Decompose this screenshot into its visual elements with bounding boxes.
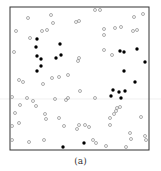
open-point [75,21,78,24]
open-point [46,29,49,32]
open-point [11,139,14,142]
filled-point [39,64,42,67]
figure-caption: (a) [0,156,161,166]
filled-point [123,89,126,92]
open-point [79,90,82,93]
filled-point [118,49,121,52]
open-point [125,146,128,149]
open-point [115,110,118,113]
open-point [95,142,98,145]
open-point [78,20,81,23]
filled-point [59,53,62,56]
filled-point [143,60,146,63]
filled-point [122,50,125,53]
filled-point [35,54,38,57]
open-point [145,139,148,142]
open-point [133,16,136,19]
open-points-series [11,9,148,149]
open-point [28,141,31,144]
open-point [77,60,80,63]
filled-point [133,80,136,83]
filled-point [58,42,61,45]
open-point [142,13,145,16]
open-point [51,77,54,80]
open-point [78,57,81,60]
open-point [58,76,61,79]
open-point [45,118,48,121]
filled-point [117,90,120,93]
open-point [18,79,21,82]
open-point [120,26,123,29]
open-point [88,126,91,129]
filled-point [35,69,38,72]
open-point [42,83,45,86]
open-point [94,9,97,12]
open-point [103,34,106,37]
open-point [136,29,139,32]
open-point [14,112,17,115]
open-point [43,139,46,142]
open-point [18,122,21,125]
open-point [140,116,143,119]
scatter-plot [0,0,161,171]
open-point [103,49,106,52]
open-point [99,9,102,12]
filled-point [111,88,114,91]
open-point [29,37,32,40]
open-point [92,139,95,142]
open-point [116,107,119,110]
open-point [109,117,112,120]
open-point [11,96,14,99]
open-point [144,135,147,138]
open-point [32,100,35,103]
open-point [105,145,108,148]
open-point [103,28,106,31]
filled-points-series [34,37,146,148]
filled-point [122,69,125,72]
filled-point [54,56,57,59]
open-point [84,124,87,127]
plot-frame [10,7,149,150]
open-point [41,30,44,33]
open-point [113,113,116,116]
open-point [19,104,22,107]
open-point [119,106,122,109]
open-point [22,81,25,84]
open-point [11,125,14,128]
open-point [52,22,55,25]
open-point [50,14,53,17]
open-point [15,30,18,33]
open-point [109,124,112,127]
filled-point [109,94,112,97]
filled-point [82,141,85,144]
open-point [44,113,47,116]
open-point [132,30,135,33]
filled-point [34,45,37,48]
filled-point [35,37,38,40]
open-point [114,27,117,30]
open-point [27,17,30,20]
open-point [13,51,16,54]
open-point [63,125,66,128]
open-point [78,124,81,127]
open-point [35,105,38,108]
filled-point [135,47,138,50]
filled-point [61,145,64,148]
filled-point [39,57,42,60]
open-point [67,74,70,77]
open-point [58,117,61,120]
open-point [129,132,132,135]
open-point [76,128,79,131]
filled-point [119,96,122,99]
open-point [111,54,114,57]
open-point [130,138,133,141]
